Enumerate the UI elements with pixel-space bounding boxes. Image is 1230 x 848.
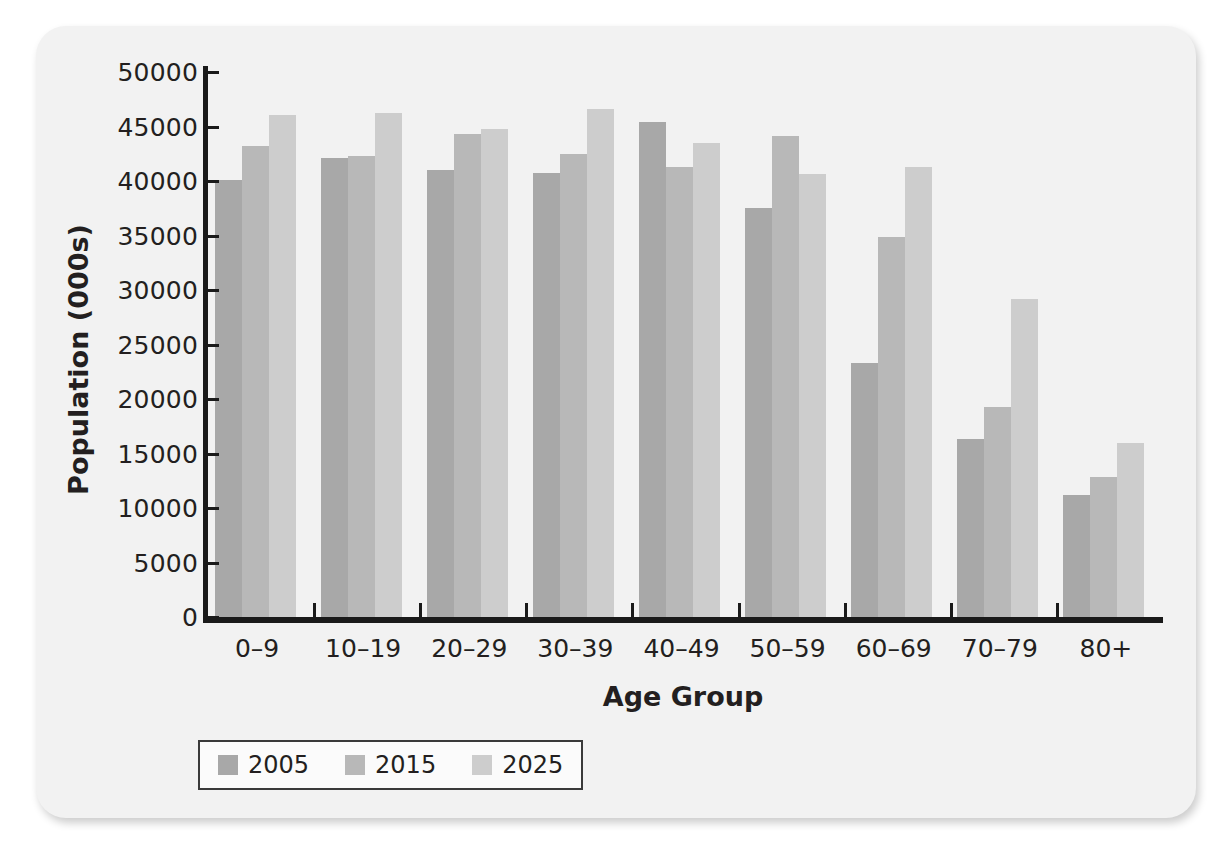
y-axis-tick	[208, 344, 219, 347]
y-axis-tick-label: 45000	[117, 112, 198, 141]
x-axis-category-label: 60–69	[856, 634, 932, 663]
y-axis-tick-label: 50000	[117, 58, 198, 87]
bar-2005-40–49	[639, 122, 666, 617]
bar-2005-10–19	[321, 158, 348, 617]
bar-2025-50–59	[799, 174, 826, 617]
bar-2025-10–19	[375, 113, 402, 617]
x-axis-tick	[631, 603, 634, 617]
bar-2025-70–79	[1011, 299, 1038, 617]
y-axis-tick	[208, 289, 219, 292]
x-axis-tick	[419, 603, 422, 617]
y-axis-tick-label: 20000	[117, 385, 198, 414]
legend-label: 2025	[502, 751, 563, 779]
y-axis-tick	[208, 126, 219, 129]
bar-2025-30–39	[587, 109, 614, 617]
bar-2005-50–59	[745, 208, 772, 617]
y-axis-tick-label: 10000	[117, 494, 198, 523]
bar-2015-20–29	[454, 134, 481, 617]
legend-label: 2015	[375, 751, 436, 779]
bar-2005-60–69	[851, 363, 878, 617]
y-axis-tick-label: 35000	[117, 221, 198, 250]
page-root: Population (000s) 0500010000150002000025…	[0, 0, 1230, 848]
legend-swatch-icon	[472, 755, 492, 775]
x-axis-tick	[525, 603, 528, 617]
bar-2025-20–29	[481, 129, 508, 617]
y-axis-tick	[208, 616, 219, 619]
y-axis-tick	[208, 235, 219, 238]
y-axis-tick	[208, 180, 219, 183]
bar-2015-70–79	[984, 407, 1011, 617]
y-axis-tick	[208, 71, 219, 74]
x-axis-category-label: 80+	[1080, 634, 1133, 663]
bar-2015-80+	[1090, 477, 1117, 617]
x-axis-category-label: 10–19	[325, 634, 401, 663]
y-axis-tick-label: 0	[182, 603, 198, 632]
x-axis-tick	[844, 603, 847, 617]
bar-2015-0–9	[242, 146, 269, 617]
x-axis-tick	[950, 603, 953, 617]
y-axis-tick-label: 30000	[117, 276, 198, 305]
plot-area	[205, 55, 1163, 621]
y-axis-tick	[208, 398, 219, 401]
y-axis-tick	[208, 453, 219, 456]
y-axis-tick-label: 15000	[117, 439, 198, 468]
x-axis-category-label: 40–49	[643, 634, 719, 663]
y-axis-tick-label: 5000	[134, 548, 198, 577]
bar-2015-60–69	[878, 237, 905, 617]
bar-2025-80+	[1117, 443, 1144, 617]
legend-swatch-icon	[345, 755, 365, 775]
legend-item-2025[interactable]: 2025	[472, 751, 563, 779]
x-axis-title: Age Group	[203, 681, 1163, 712]
x-axis-category-label: 70–79	[962, 634, 1038, 663]
x-axis-category-label: 20–29	[431, 634, 507, 663]
bar-2005-30–39	[533, 173, 560, 617]
bar-2015-50–59	[772, 136, 799, 617]
bar-2005-80+	[1063, 495, 1090, 617]
legend-swatch-icon	[218, 755, 238, 775]
legend-item-2005[interactable]: 2005	[218, 751, 309, 779]
y-axis-tick-label: 40000	[117, 167, 198, 196]
bar-2005-20–29	[427, 170, 454, 617]
bar-2015-40–49	[666, 167, 693, 617]
bar-2015-30–39	[560, 154, 587, 617]
legend-item-2015[interactable]: 2015	[345, 751, 436, 779]
chart-card: Population (000s) 0500010000150002000025…	[36, 26, 1196, 818]
bar-2005-70–79	[957, 439, 984, 617]
x-axis-category-label: 30–39	[537, 634, 613, 663]
bar-2025-40–49	[693, 143, 720, 617]
legend-label: 2005	[248, 751, 309, 779]
y-axis-tick	[208, 507, 219, 510]
x-axis-category-label: 50–59	[750, 634, 826, 663]
chart-legend: 200520152025	[198, 740, 583, 790]
x-axis-tick	[313, 603, 316, 617]
x-axis-tick	[738, 603, 741, 617]
x-axis-tick	[1056, 603, 1059, 617]
bar-2015-10–19	[348, 156, 375, 617]
y-axis-tick-labels: 0500010000150002000025000300003500040000…	[36, 26, 198, 818]
y-axis-tick	[208, 562, 219, 565]
y-axis-tick-label: 25000	[117, 330, 198, 359]
bar-2025-60–69	[905, 167, 932, 617]
bar-2025-0–9	[269, 115, 296, 617]
x-axis-category-label: 0–9	[235, 634, 279, 663]
